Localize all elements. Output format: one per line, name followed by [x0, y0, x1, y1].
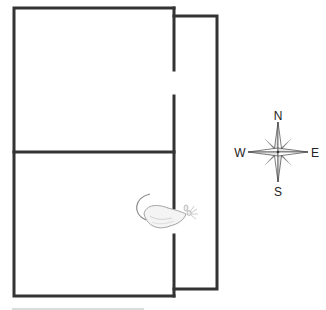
- compass-label-north: N: [274, 109, 283, 123]
- compass-west-point: [248, 148, 278, 152]
- compass-label-west: W: [234, 146, 246, 160]
- compass-north-point: [274, 122, 278, 152]
- rat-body: [144, 206, 186, 228]
- maze-diagram: N S W E: [0, 0, 326, 310]
- main-building: [14, 8, 174, 296]
- compass-label-south: S: [274, 185, 282, 199]
- compass-label-east: E: [311, 146, 319, 160]
- rat-figure: [137, 194, 198, 228]
- compass-east-point: [278, 148, 308, 152]
- east-corridor: [174, 16, 217, 289]
- compass-rose: N S W E: [234, 109, 319, 199]
- compass-south-point: [274, 152, 278, 182]
- corridor-wall: [174, 16, 217, 289]
- rat-ear: [184, 205, 188, 211]
